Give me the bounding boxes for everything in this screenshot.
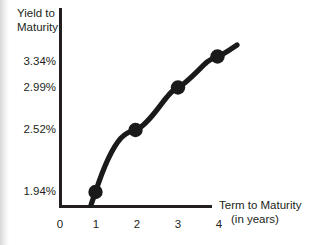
y-axis-title-line2: Maturity bbox=[17, 21, 58, 33]
x-axis-title-line2: (in years) bbox=[219, 212, 301, 226]
x-axis-title-line1: Term to Maturity bbox=[219, 199, 301, 211]
data-point-2 bbox=[128, 123, 142, 137]
data-point-4 bbox=[210, 49, 224, 63]
x-tick-label-4: 4 bbox=[210, 218, 228, 230]
y-tick-label-2: 2.99% bbox=[12, 81, 56, 93]
y-tick-label-1: 2.52% bbox=[12, 123, 56, 135]
x-tick-label-0: 0 bbox=[51, 218, 69, 230]
y-axis-title-line1: Yield to bbox=[17, 7, 55, 19]
data-point-1 bbox=[88, 185, 102, 199]
y-tick-label-3: 3.34% bbox=[12, 55, 56, 67]
y-tick-label-0: 1.94% bbox=[12, 185, 56, 197]
x-tick-label-3: 3 bbox=[169, 218, 187, 230]
data-point-markers bbox=[88, 49, 224, 199]
yield-curve-line bbox=[91, 45, 237, 205]
x-axis-title: Term to Maturity (in years) bbox=[219, 198, 301, 226]
data-point-3 bbox=[171, 80, 185, 94]
y-axis-title: Yield to Maturity bbox=[17, 6, 58, 34]
x-tick-label-2: 2 bbox=[128, 218, 146, 230]
chart-figure: Yield to Maturity Term to Maturity (in y… bbox=[0, 0, 314, 245]
x-tick-label-1: 1 bbox=[87, 218, 105, 230]
